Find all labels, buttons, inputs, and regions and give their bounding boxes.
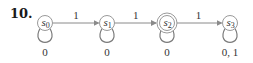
state-s3: s30, 1 bbox=[222, 16, 239, 59]
loop-label: 0 bbox=[164, 46, 170, 58]
state-diagram: 10. 111 s00s10s20s30, 1 bbox=[0, 0, 253, 63]
transition-label: 1 bbox=[133, 9, 139, 21]
state-s1: s10 bbox=[100, 16, 115, 59]
state-s0: s00 bbox=[38, 16, 53, 59]
transition-label: 1 bbox=[196, 9, 202, 21]
loop-label: 0, 1 bbox=[222, 46, 239, 58]
state-s2: s20 bbox=[157, 13, 177, 58]
loop-label: 0 bbox=[104, 46, 110, 58]
problem-number: 10. bbox=[10, 6, 33, 21]
transition-label: 1 bbox=[73, 9, 79, 21]
loop-label: 0 bbox=[42, 46, 48, 58]
